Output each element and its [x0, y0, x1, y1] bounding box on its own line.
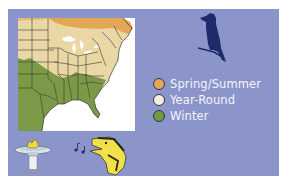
range-map: [18, 18, 135, 131]
legend-item-winter: Winter: [153, 108, 261, 124]
singing-bird-icon: [72, 133, 130, 177]
legend-item-spring-summer: Spring/Summer: [153, 76, 261, 92]
legend-label: Winter: [170, 109, 209, 123]
range-map-panel: Spring/Summer Year-Round Winter: [8, 9, 279, 176]
music-notes-icon: [74, 143, 84, 154]
legend: Spring/Summer Year-Round Winter: [153, 76, 261, 124]
legend-label: Spring/Summer: [170, 77, 261, 91]
year-round-swatch: [153, 94, 165, 106]
perched-bird-icon: [194, 10, 230, 64]
spring-summer-swatch: [153, 78, 165, 90]
winter-swatch: [153, 110, 165, 122]
birdbath-icon: [13, 136, 53, 174]
legend-item-year-round: Year-Round: [153, 92, 261, 108]
legend-label: Year-Round: [170, 93, 235, 107]
